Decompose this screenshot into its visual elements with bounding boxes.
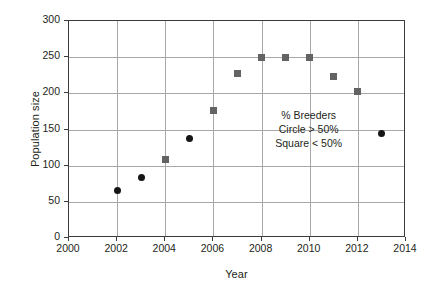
data-point-square <box>258 54 265 61</box>
y-tick-mark <box>64 129 68 130</box>
y-tick-mark <box>64 20 68 21</box>
y-tick-label: 300 <box>32 13 60 25</box>
y-tick-label: 0 <box>32 230 60 242</box>
annotation-line: Square < 50% <box>275 136 342 150</box>
gridline-vertical <box>165 21 166 236</box>
x-tick-label: 2004 <box>144 242 184 254</box>
x-tick-label: 2010 <box>289 242 329 254</box>
data-point-square <box>306 54 313 61</box>
gridline-vertical <box>213 21 214 236</box>
annotation-breeders-key: % BreedersCircle > 50%Square < 50% <box>275 108 342 150</box>
y-tick-label: 50 <box>32 194 60 206</box>
gridline-horizontal <box>69 166 404 167</box>
x-tick-label: 2008 <box>241 242 281 254</box>
data-point-square <box>210 107 217 114</box>
data-point-square <box>330 73 337 80</box>
x-tick-label: 2006 <box>192 242 232 254</box>
y-tick-mark <box>64 165 68 166</box>
data-point-square <box>162 156 169 163</box>
data-point-circle <box>186 135 193 142</box>
x-axis-title: Year <box>68 268 405 280</box>
data-point-circle <box>114 187 121 194</box>
x-tick-mark <box>357 237 358 241</box>
x-tick-mark <box>116 237 117 241</box>
data-point-square <box>282 54 289 61</box>
x-tick-label: 2002 <box>96 242 136 254</box>
gridline-vertical <box>358 21 359 236</box>
data-point-square <box>354 88 361 95</box>
x-tick-mark <box>309 237 310 241</box>
plot-area <box>68 20 405 237</box>
x-tick-label: 2000 <box>48 242 88 254</box>
gridline-horizontal <box>69 202 404 203</box>
annotation-line: % Breeders <box>275 108 342 122</box>
chart-figure: Population size 050100150200250300200020… <box>0 0 428 289</box>
x-tick-mark <box>261 237 262 241</box>
data-point-square <box>234 70 241 77</box>
x-tick-mark <box>164 237 165 241</box>
y-tick-mark <box>64 201 68 202</box>
data-point-circle <box>378 130 385 137</box>
x-tick-label: 2014 <box>385 242 425 254</box>
y-tick-label: 150 <box>32 122 60 134</box>
gridline-vertical <box>117 21 118 236</box>
x-tick-mark <box>212 237 213 241</box>
y-tick-label: 100 <box>32 158 60 170</box>
gridline-horizontal <box>69 130 404 131</box>
gridline-horizontal <box>69 57 404 58</box>
y-tick-mark <box>64 56 68 57</box>
x-tick-mark <box>68 237 69 241</box>
y-tick-label: 250 <box>32 49 60 61</box>
annotation-line: Circle > 50% <box>275 122 342 136</box>
x-tick-label: 2012 <box>337 242 377 254</box>
y-tick-mark <box>64 92 68 93</box>
x-tick-mark <box>405 237 406 241</box>
data-point-circle <box>138 174 145 181</box>
y-tick-label: 200 <box>32 85 60 97</box>
